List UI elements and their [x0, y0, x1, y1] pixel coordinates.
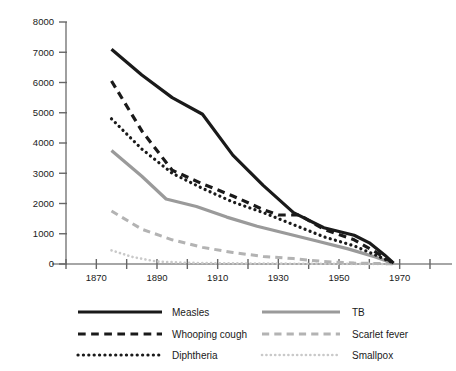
mortality-decline-line-chart: 0100020003000400050006000700080001870189…	[0, 0, 456, 371]
y-axis-tick-label: 6000	[33, 77, 54, 88]
y-axis-tick-label: 0	[49, 258, 54, 269]
y-axis-tick-label: 3000	[33, 168, 54, 179]
legend-label-whooping-cough: Whooping cough	[172, 329, 247, 340]
x-axis-tick-label: 1950	[328, 272, 349, 283]
series-line-tb	[112, 151, 394, 264]
legend-label-smallpox: Smallpox	[352, 350, 393, 361]
x-axis-tick-label: 1870	[86, 272, 107, 283]
legend-label-tb: TB	[352, 307, 365, 318]
legend-label-scarlet-fever: Scarlet fever	[352, 329, 409, 340]
y-axis-tick-label: 7000	[33, 47, 54, 58]
series-line-measles	[112, 49, 394, 263]
x-axis-tick-label: 1910	[207, 272, 228, 283]
legend-label-measles: Measles	[172, 307, 209, 318]
legend-label-diphtheria: Diphtheria	[172, 350, 218, 361]
y-axis-tick-label: 8000	[33, 16, 54, 27]
series-line-diphtheria	[112, 119, 394, 263]
series-line-scarlet-fever	[112, 211, 394, 264]
x-axis-tick-label: 1930	[268, 272, 289, 283]
y-axis-tick-label: 5000	[33, 107, 54, 118]
y-axis-tick-label: 2000	[33, 198, 54, 209]
y-axis-tick-label: 1000	[33, 228, 54, 239]
x-axis-tick-label: 1970	[389, 272, 410, 283]
y-axis-tick-label: 4000	[33, 137, 54, 148]
x-axis-tick-label: 1890	[146, 272, 167, 283]
chart-canvas: 0100020003000400050006000700080001870189…	[0, 0, 456, 371]
